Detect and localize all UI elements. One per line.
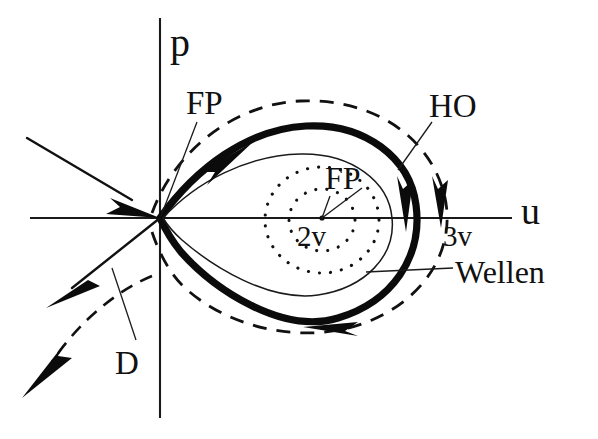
stable-manifold-incoming (27, 138, 160, 218)
stable-manifold-arrowhead (106, 198, 160, 218)
homoclinic-arrow-right (397, 176, 413, 232)
two-v-region-label: 2v (297, 222, 326, 251)
d-manifold-label: D (115, 347, 139, 380)
u-axis-label: u (521, 192, 540, 230)
d-leader (112, 268, 136, 340)
fp-center-label: FP (325, 162, 361, 194)
unstable-manifold-outgoing-solid (46, 218, 160, 308)
outer-dashed-curve (152, 101, 447, 333)
p-axis-label: p (170, 23, 190, 63)
ho-leader (398, 122, 432, 170)
three-v-region-label: 3v (443, 222, 472, 251)
ho-label: HO (429, 90, 477, 123)
d-manifold-arrowhead (22, 344, 72, 398)
fp-saddle-label: FP (186, 87, 223, 120)
unstable-manifold-arrowhead (46, 272, 100, 308)
homoclinic-right-arrowhead (397, 176, 413, 232)
wellen-leader (366, 268, 453, 272)
outer-periodic-orbit (152, 101, 447, 333)
stable-manifold-line (27, 138, 132, 200)
wellen-label: Wellen (455, 256, 545, 288)
phase-portrait-figure: p u FP FP HO Wellen 2v 3v D (0, 0, 598, 439)
